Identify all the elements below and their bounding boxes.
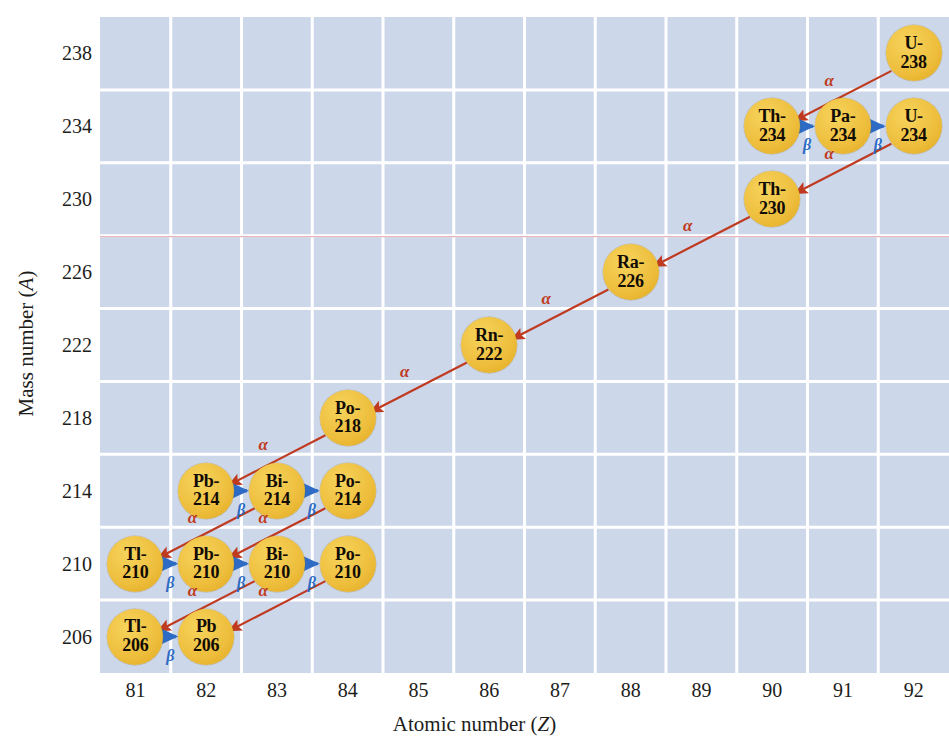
nuclide-bi-210[interactable]: Bi-210 [249,536,305,592]
nuclide-th-230[interactable]: Th-230 [744,171,800,227]
decay-label-alpha-th-230-to-ra-226: α [683,216,692,236]
decay-series-figure: U-238Th-234Pa-234U-234Th-230Ra-226Rn-222… [0,0,949,756]
nuclide-symbol: Po- [335,546,360,564]
nuclide-mass: 214 [264,491,290,509]
x-tick-90: 90 [742,680,802,700]
nuclide-mass: 214 [335,491,361,509]
nuclide-symbol: Th- [759,108,786,126]
nuclide-symbol: Bi- [266,546,288,564]
nuclide-th-234[interactable]: Th-234 [744,98,800,154]
nuclide-po-210[interactable]: Po-210 [320,536,376,592]
nuclide-mass: 210 [264,564,290,582]
nuclide-po-214[interactable]: Po-214 [320,463,376,519]
x-tick-89: 89 [671,680,731,700]
y-axis-title: Mass number (A) [14,174,39,514]
decay-label-alpha-po-210-to-pb-206: α [259,581,268,601]
nuclide-mass: 206 [122,637,148,655]
nuclide-tl-206[interactable]: Tl-206 [107,609,163,665]
x-tick-83: 83 [247,680,307,700]
nuclide-symbol: Po- [335,400,360,418]
decay-label-beta-pa-234-to-u-234: β [874,136,882,154]
nuclide-pa-234[interactable]: Pa-234 [815,98,871,154]
nuclide-ra-226[interactable]: Ra-226 [603,244,659,300]
nuclide-tl-210[interactable]: Tl-210 [107,536,163,592]
y-axis-title-tail: ) [14,271,38,278]
decay-label-alpha-bi-210-to-tl-206: α [188,581,197,601]
decay-label-beta-tl-210-to-pb-210: β [166,574,174,592]
x-tick-82: 82 [176,680,236,700]
decay-label-alpha-rn-222-to-po-218: α [400,362,409,382]
nuclide-mass: 210 [335,564,361,582]
nuclide-symbol: Tl- [124,618,146,636]
decay-label-alpha-ra-226-to-rn-222: α [542,289,551,309]
decay-label-beta-pb-214-to-bi-214: β [237,501,245,519]
nuclide-symbol: Pb [196,618,216,636]
nuclide-rn-222[interactable]: Rn-222 [461,317,517,373]
decay-label-beta-pb-210-to-bi-210: β [237,574,245,592]
decay-label-alpha-po-218-to-pb-214: α [259,435,268,455]
nuclide-mass: 234 [759,127,785,145]
decay-label-beta-tl-206-to-pb-206: β [166,647,174,665]
x-tick-86: 86 [459,680,519,700]
nuclide-mass: 210 [193,564,219,582]
nuclide-mass: 222 [476,346,502,364]
nuclide-mass: 226 [618,273,644,291]
nuclide-symbol: Tl- [124,546,146,564]
nuclide-symbol: Pa- [830,108,855,126]
x-tick-87: 87 [530,680,590,700]
x-axis-title-text: Atomic number ( [393,712,538,736]
x-tick-88: 88 [601,680,661,700]
nuclide-mass: 234 [901,127,927,145]
nuclide-mass: 214 [193,491,219,509]
nuclide-mass: 206 [193,637,219,655]
x-axis-title-tail: ) [549,712,556,736]
nuclide-symbol: Bi- [266,473,288,491]
y-axis-title-text: Mass number ( [14,290,38,416]
decay-label-beta-th-234-to-pa-234: β [803,136,811,154]
nuclide-pb-206[interactable]: Pb206 [178,609,234,665]
nuclide-symbol: Pb- [193,473,219,491]
nuclide-symbol: U- [904,108,922,126]
nuclide-symbol: Pb- [193,546,219,564]
nuclide-pb-210[interactable]: Pb-210 [178,536,234,592]
decay-label-alpha-u-234-to-th-230: α [825,144,834,164]
nuclide-mass: 230 [759,200,785,218]
nuclide-pb-214[interactable]: Pb-214 [178,463,234,519]
nuclide-mass: 234 [830,127,856,145]
decay-label-beta-bi-214-to-po-214: β [308,501,316,519]
nuclide-symbol: U- [904,35,922,53]
nuclide-u-238[interactable]: U-238 [886,25,942,81]
nuclide-symbol: Th- [759,181,786,199]
nuclide-bi-214[interactable]: Bi-214 [249,463,305,519]
nuclide-mass: 218 [335,418,361,436]
x-tick-91: 91 [813,680,873,700]
decay-label-alpha-u-238-to-th-234: α [825,71,834,91]
decay-label-alpha-po-214-to-pb-210: α [259,508,268,528]
x-tick-81: 81 [105,680,165,700]
x-tick-85: 85 [388,680,448,700]
x-axis-title: Atomic number (Z) [0,712,949,737]
nuclide-mass: 210 [122,564,148,582]
nuclide-u-234[interactable]: U-234 [886,98,942,154]
nuclide-symbol: Ra- [617,254,644,272]
y-axis-title-symbol: A [14,278,38,291]
x-axis-title-symbol: Z [537,712,549,736]
decay-label-beta-bi-210-to-po-210: β [308,574,316,592]
nuclide-mass: 238 [901,54,927,72]
decay-label-alpha-bi-214-to-tl-210: α [188,508,197,528]
x-tick-84: 84 [318,680,378,700]
nuclide-symbol: Po- [335,473,360,491]
nuclide-symbol: Rn- [475,327,503,345]
nuclide-po-218[interactable]: Po-218 [320,390,376,446]
x-tick-92: 92 [884,680,944,700]
